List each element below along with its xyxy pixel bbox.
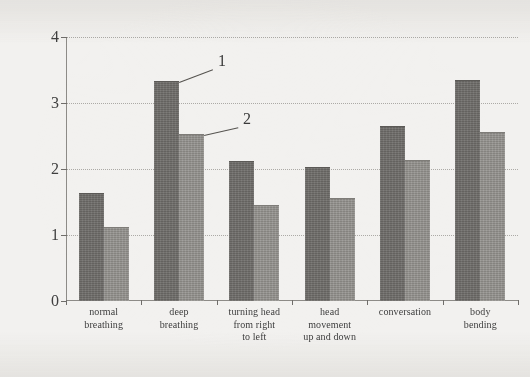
bar-chart-figure: Coefficient, % 01234 normalbreathingdeep… [0,0,530,377]
bar-series-2 [330,198,355,301]
x-category-label: conversation [361,306,448,319]
bar-series-1 [154,81,179,301]
x-tick-mark [518,300,519,305]
callout-label-1: 1 [218,53,226,69]
bar-series-1 [79,193,104,301]
bar-series-2 [179,134,204,301]
x-tick-mark [292,300,293,305]
bar-group [380,37,430,301]
gridline [66,37,518,38]
x-category-label: deepbreathing [135,306,222,331]
x-tick-mark [217,300,218,305]
x-category-label: headmovementup and down [286,306,373,344]
y-tick-label: 3 [51,95,59,111]
x-category-label: normalbreathing [60,306,147,331]
x-tick-mark [443,300,444,305]
bar-group [455,37,505,301]
y-tick-mark [61,169,67,170]
y-tick-mark [61,235,67,236]
y-tick-label: 1 [51,227,59,243]
bar-group [305,37,355,301]
plot-area: 01234 [66,37,518,301]
y-tick-label: 0 [51,293,59,309]
y-tick-label: 4 [51,29,59,45]
gridline [66,103,518,104]
x-tick-mark [66,300,67,305]
bar-series-2 [480,132,505,301]
x-tick-mark [367,300,368,305]
x-category-label: bodybending [437,306,524,331]
x-category-label: turning headfrom rightto left [211,306,298,344]
callout-label-2: 2 [243,111,251,127]
bar-group [229,37,279,301]
y-tick-mark [61,103,67,104]
bar-series-2 [254,205,279,301]
bar-series-1 [455,80,480,301]
bar-group [79,37,129,301]
bar-series-1 [229,161,254,301]
y-tick-mark [61,37,67,38]
bar-series-1 [380,126,405,301]
y-tick-label: 2 [51,161,59,177]
gridline [66,169,518,170]
x-axis-category-labels: normalbreathingdeepbreathingturning head… [66,306,518,376]
gridline [66,235,518,236]
bar-series-2 [104,227,129,301]
x-tick-mark [141,300,142,305]
bar-group [154,37,204,301]
bar-series-1 [305,167,330,301]
bar-series-2 [405,160,430,301]
